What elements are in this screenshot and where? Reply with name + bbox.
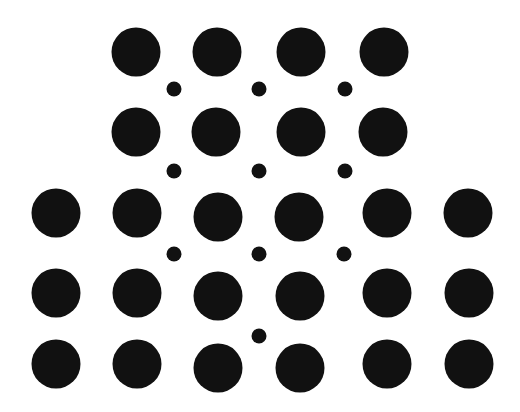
large-dot: [194, 272, 243, 321]
large-dot: [32, 340, 81, 389]
large-dot: [444, 189, 493, 238]
large-dot: [276, 272, 325, 321]
large-dot: [445, 340, 494, 389]
large-dot: [32, 269, 81, 318]
small-dot: [252, 82, 267, 97]
large-dot: [360, 28, 409, 77]
large-dot: [113, 189, 162, 238]
large-dot: [193, 28, 242, 77]
small-dot: [167, 164, 182, 179]
small-dot: [252, 164, 267, 179]
large-dot: [192, 108, 241, 157]
large-dot: [363, 189, 412, 238]
large-dot: [277, 28, 326, 77]
large-dot: [359, 108, 408, 157]
large-dot: [112, 28, 161, 77]
dot-pattern-canvas: [0, 0, 520, 412]
large-dot: [194, 344, 243, 393]
large-dot: [277, 108, 326, 157]
small-dot: [252, 329, 267, 344]
large-dot: [113, 269, 162, 318]
small-dot: [338, 164, 353, 179]
small-dot: [167, 247, 182, 262]
large-dot: [363, 269, 412, 318]
large-dot: [275, 193, 324, 242]
small-dot: [167, 82, 182, 97]
large-dot: [363, 340, 412, 389]
small-dot: [252, 247, 267, 262]
large-dot: [112, 108, 161, 157]
large-dot: [113, 340, 162, 389]
large-dot: [445, 269, 494, 318]
large-dot: [32, 189, 81, 238]
large-dot: [194, 193, 243, 242]
small-dot: [338, 82, 353, 97]
small-dot: [337, 247, 352, 262]
large-dot: [276, 344, 325, 393]
